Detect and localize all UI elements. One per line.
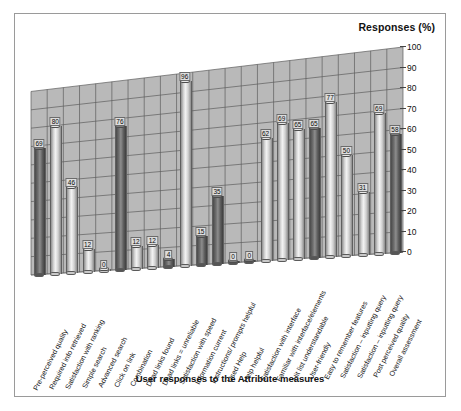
bar-base: [374, 252, 384, 256]
bar-value-label: 58: [389, 125, 400, 134]
bar-value-label: 80: [50, 117, 61, 126]
bar-body: [212, 196, 224, 264]
bar-body: [34, 148, 46, 275]
bar-8: [163, 259, 173, 267]
bar-base: [358, 253, 368, 257]
figure-frame: Responses (%) 69804612076121249615350062…: [14, 13, 446, 397]
bar-base: [180, 264, 190, 268]
bar-body: [325, 102, 337, 257]
bar-value-label: 69: [276, 114, 287, 123]
bar-value-label: 50: [341, 146, 352, 155]
bar-base: [147, 266, 157, 270]
bar-body: [50, 126, 62, 274]
bar-15: [277, 123, 287, 260]
bar-value-label: 0: [246, 251, 254, 260]
bar-4: [99, 269, 109, 271]
bar-0: [34, 148, 44, 275]
bar-base: [277, 258, 287, 262]
bar-base: [115, 268, 125, 272]
bar-13: [244, 260, 254, 262]
bar-value-label: 15: [195, 227, 206, 236]
bar-body: [180, 81, 192, 266]
y-axis-title: Responses (%): [358, 21, 435, 33]
y-tick-60: 60: [407, 125, 416, 133]
bar-base: [293, 257, 303, 261]
bar-7: [147, 245, 157, 268]
y-tick-90: 90: [407, 64, 416, 72]
bar-value-label: 12: [131, 237, 142, 246]
bar-value-label: 12: [82, 240, 93, 249]
bar-22: [390, 134, 400, 253]
bar-value-label: 12: [147, 236, 158, 245]
bar-value-label: 0: [229, 252, 237, 261]
bar-value-label: 77: [325, 93, 336, 102]
bar-base: [325, 255, 335, 259]
bar-20: [358, 192, 368, 255]
bar-21: [374, 113, 384, 254]
bar-base: [163, 265, 173, 269]
bar-body: [293, 129, 305, 258]
bar-series: 6980461207612124961535006269656577503169…: [31, 47, 403, 275]
y-tick-30: 30: [407, 187, 416, 195]
bar-base: [309, 256, 319, 260]
bar-19: [341, 155, 351, 256]
bar-value-label: 62: [260, 129, 271, 138]
bar-9: [180, 81, 190, 266]
plot-area: 6980461207612124961535006269656577503169…: [31, 47, 403, 275]
bar-16: [293, 129, 303, 258]
bar-body: [131, 246, 143, 269]
bar-body: [196, 236, 208, 265]
bar-17: [309, 128, 319, 258]
bar-base: [212, 262, 222, 266]
bar-body: [115, 126, 127, 269]
bar-10: [196, 236, 206, 265]
bar-value-label: 69: [373, 104, 384, 113]
bar-base: [390, 251, 400, 255]
y-tick-40: 40: [407, 166, 416, 174]
bar-value-label: 0: [100, 260, 108, 269]
bar-value-label: 65: [308, 119, 319, 128]
bar-body: [83, 249, 95, 271]
bar-3: [83, 249, 93, 271]
bar-12: [228, 261, 238, 263]
bar-body: [147, 245, 159, 268]
y-tick-10: 10: [407, 228, 416, 236]
bar-base: [131, 267, 141, 271]
y-tick-20: 20: [407, 207, 416, 215]
chart-page: Responses (%) 69804612076121249615350062…: [0, 0, 461, 411]
x-axis-title: User responses to the Attribute measures: [15, 373, 445, 384]
bar-base: [196, 263, 206, 267]
y-tick-0: 0: [407, 248, 412, 256]
bar-6: [131, 246, 141, 269]
bar-5: [115, 126, 125, 269]
bar-body: [374, 113, 386, 254]
bar-11: [212, 196, 222, 264]
bar-body: [261, 138, 273, 260]
bar-value-label: 65: [292, 120, 303, 129]
bar-value-label: 69: [33, 139, 44, 148]
bar-14: [261, 138, 271, 260]
bar-value-label: 46: [66, 178, 77, 187]
bar-body: [66, 187, 78, 273]
bar-body: [358, 192, 370, 255]
bar-base: [341, 254, 351, 258]
bar-2: [66, 187, 76, 273]
bar-base: [261, 259, 271, 263]
bar-value-label: 4: [165, 250, 173, 259]
y-tick-50: 50: [407, 146, 416, 154]
bar-18: [325, 102, 335, 257]
bar-body: [309, 128, 321, 258]
bar-value-label: 96: [179, 72, 190, 81]
bar-value-label: 76: [114, 117, 125, 126]
y-axis: 1009080706050403020100: [407, 47, 447, 287]
bar-body: [341, 155, 353, 256]
y-tick-100: 100: [407, 43, 421, 51]
y-tick-80: 80: [407, 84, 416, 92]
bar-value-label: 31: [357, 183, 368, 192]
bar-body: [277, 123, 289, 260]
y-tick-70: 70: [407, 105, 416, 113]
bar-1: [50, 126, 60, 274]
bar-body: [390, 134, 402, 253]
bar-value-label: 35: [211, 187, 222, 196]
